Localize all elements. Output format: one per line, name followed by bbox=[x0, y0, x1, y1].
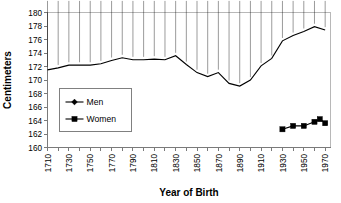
x-tick-label: 1950 bbox=[300, 154, 309, 173]
x-tick-label: 1770 bbox=[108, 154, 117, 173]
legend-label-women: Women bbox=[87, 114, 117, 124]
y-tick-label: 160 bbox=[28, 144, 42, 153]
y-tick-label: 162 bbox=[28, 130, 42, 139]
y-tick-label: 178 bbox=[28, 22, 42, 31]
x-tick-label: 1750 bbox=[86, 154, 95, 173]
y-axis-title: Centimeters bbox=[2, 51, 13, 109]
x-tick-label: 1890 bbox=[236, 154, 245, 173]
y-tick-label: 168 bbox=[28, 90, 42, 99]
y-tick-label: 180 bbox=[28, 9, 42, 18]
x-tick-label: 1710 bbox=[44, 154, 53, 173]
chart-container: 1601621641661681701721741761781801710173… bbox=[0, 0, 341, 203]
x-tick-label: 1970 bbox=[321, 154, 330, 173]
x-tick-label: 1910 bbox=[257, 154, 266, 173]
data-point-marker bbox=[280, 127, 285, 132]
data-point-marker bbox=[317, 117, 322, 122]
legend-box bbox=[60, 89, 132, 132]
y-tick-label: 170 bbox=[28, 76, 42, 85]
x-tick-label: 1930 bbox=[279, 154, 288, 173]
data-point-marker bbox=[323, 121, 328, 126]
series-women bbox=[280, 117, 328, 132]
legend-label-men: Men bbox=[87, 97, 104, 107]
data-point-marker bbox=[291, 123, 296, 128]
x-tick-label: 1850 bbox=[193, 154, 202, 173]
y-tick-label: 166 bbox=[28, 103, 42, 112]
x-tick-label: 1730 bbox=[65, 154, 74, 173]
height-by-year-of-birth-line-chart: 1601621641661681701721741761781801710173… bbox=[0, 0, 341, 203]
x-tick-label: 1790 bbox=[129, 154, 138, 173]
legend-square-icon bbox=[72, 116, 77, 121]
series-men bbox=[48, 1, 326, 86]
x-axis-title: Year of Birth bbox=[159, 187, 218, 198]
data-point-marker bbox=[301, 123, 306, 128]
data-point-marker bbox=[312, 119, 317, 124]
x-tick-label: 1870 bbox=[215, 154, 224, 173]
y-tick-label: 164 bbox=[28, 117, 42, 126]
y-tick-label: 172 bbox=[28, 63, 42, 72]
y-tick-label: 174 bbox=[28, 49, 42, 58]
y-tick-label: 176 bbox=[28, 36, 42, 45]
x-tick-label: 1810 bbox=[150, 154, 159, 173]
x-tick-label: 1830 bbox=[172, 154, 181, 173]
